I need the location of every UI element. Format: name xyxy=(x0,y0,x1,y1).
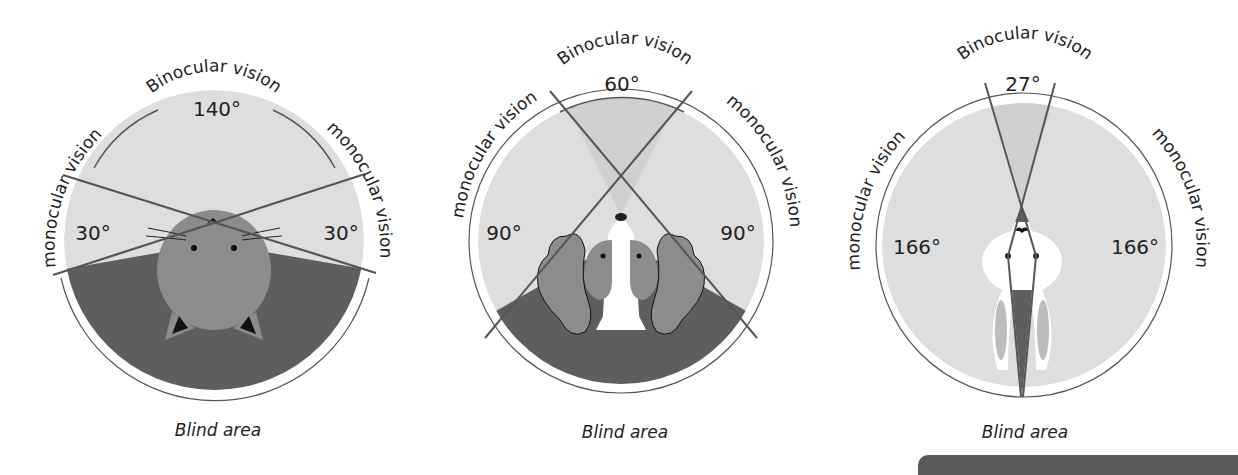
monocular-angle-right: 166° xyxy=(1111,235,1159,259)
monocular-angle-right: 30° xyxy=(323,221,358,245)
rabbit-ear-left xyxy=(995,300,1007,360)
monocular-angle-left: 30° xyxy=(75,221,110,245)
cat-eye-left xyxy=(191,245,197,251)
binocular-label: Binocular vision xyxy=(953,23,1097,64)
horse-eye-right xyxy=(637,254,642,259)
binocular-label: Binocular vision xyxy=(553,28,697,69)
blind-area-label: Blind area xyxy=(582,422,668,442)
binocular-angle: 60° xyxy=(604,72,639,96)
caption-bar xyxy=(918,455,1238,475)
blind-area-label: Blind area xyxy=(982,422,1068,442)
monocular-angle-right: 90° xyxy=(720,221,755,245)
cat-eye-right xyxy=(231,245,237,251)
blind-area-label: Blind area xyxy=(175,420,261,440)
horse-eye-left xyxy=(601,254,606,259)
rabbit-head xyxy=(982,230,1062,294)
rabbit-ear-right xyxy=(1037,300,1049,360)
binocular-angle: 27° xyxy=(1005,72,1040,96)
panel-rabbit: Binocular vision 27° monocular vision mo… xyxy=(843,23,1213,442)
binocular-angle: 140° xyxy=(193,97,241,121)
horse-nose xyxy=(615,213,627,221)
panel-cat: Binocular vision 140° monocular vision m… xyxy=(20,56,410,440)
monocular-angle-left: 166° xyxy=(893,235,941,259)
monocular-angle-left: 90° xyxy=(486,221,521,245)
